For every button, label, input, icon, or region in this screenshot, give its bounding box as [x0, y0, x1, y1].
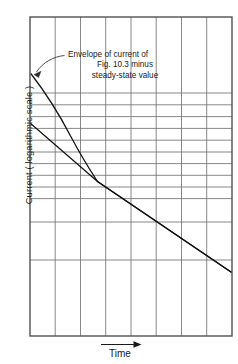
- callout-line-3: steady-state value: [66, 71, 184, 81]
- envelope-callout: Envelope of current of Fig. 10.3 minus s…: [66, 50, 184, 81]
- callout-line-1: Envelope of current of: [68, 50, 184, 60]
- x-axis-label: Time: [109, 348, 131, 359]
- time-arrow-icon: [101, 341, 142, 347]
- callout-line-2: Fig. 10.3 minus: [66, 60, 184, 70]
- y-axis-label: Current ( logarithmic scale ): [24, 70, 34, 220]
